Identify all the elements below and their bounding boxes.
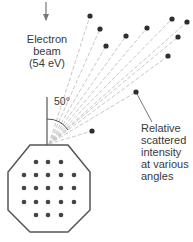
- intensity-dot: [144, 25, 149, 30]
- atom-dot: [22, 200, 27, 205]
- atom-dot: [46, 173, 51, 178]
- intensity-dot: [87, 13, 92, 18]
- atom-dot: [72, 200, 77, 205]
- intensity-dot: [165, 53, 170, 58]
- atom-dot: [72, 173, 77, 178]
- incident-arrow-head-icon: [43, 14, 49, 21]
- leader-line: [137, 94, 152, 122]
- angle-label: 50°: [54, 95, 70, 107]
- atom-dot: [46, 200, 51, 205]
- atom-dot: [59, 186, 64, 191]
- atom-dot: [34, 173, 39, 178]
- electron-beam-label: Electron beam (54 eV): [18, 33, 76, 69]
- atom-dot: [59, 200, 64, 205]
- atom-dot: [59, 160, 64, 165]
- atom-dot: [34, 213, 39, 218]
- atom-dot: [22, 173, 27, 178]
- atom-dot: [22, 186, 27, 191]
- intensity-dot: [123, 33, 128, 38]
- atom-dot: [46, 213, 51, 218]
- atom-dot: [46, 160, 51, 165]
- atom-dot: [59, 213, 64, 218]
- intensity-dot: [175, 34, 180, 39]
- intensity-dot: [103, 43, 108, 48]
- scattered-intensity-label: Relative scattered intensity at various …: [141, 122, 193, 182]
- intensity-dot: [97, 26, 102, 31]
- atom-dot: [46, 186, 51, 191]
- atom-dot: [34, 200, 39, 205]
- scatter-intensity-dots: [87, 13, 189, 133]
- atom-dot: [34, 160, 39, 165]
- atom-dot: [34, 186, 39, 191]
- intensity-dot: [169, 16, 174, 21]
- atom-dot: [59, 173, 64, 178]
- intensity-dot: [184, 19, 189, 24]
- intensity-dot: [89, 128, 94, 133]
- intensity-dot: [133, 89, 138, 94]
- atom-dot: [72, 186, 77, 191]
